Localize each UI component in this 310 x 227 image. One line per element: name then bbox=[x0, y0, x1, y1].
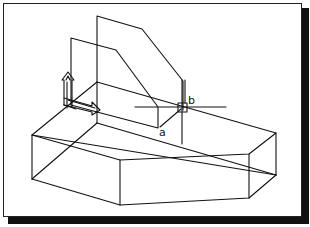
point-label-b: b bbox=[188, 94, 195, 107]
ucs-axis-icon bbox=[62, 72, 100, 115]
crosshair-cursor-icon bbox=[135, 80, 226, 144]
wireframe-drawing: a b bbox=[0, 0, 310, 227]
tall-plate bbox=[97, 16, 183, 110]
point-label-a: a bbox=[159, 126, 166, 139]
short-plate bbox=[71, 38, 158, 128]
